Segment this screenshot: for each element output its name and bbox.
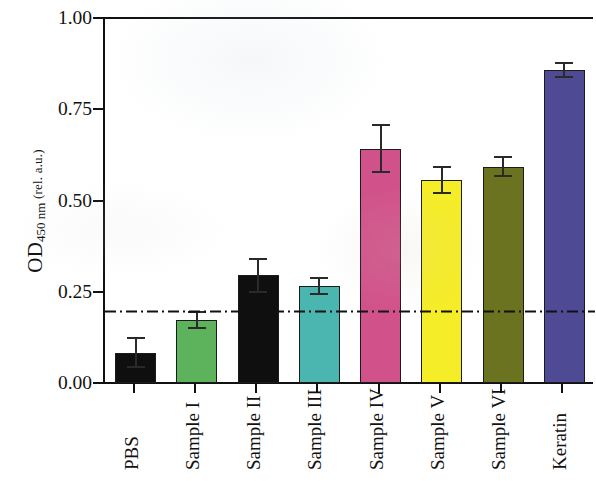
x-axis-tick-label-sample-i: Sample I [183,402,202,470]
error-bar-sample-ii [257,259,259,292]
x-axis-tick-mark [255,384,257,393]
x-axis-tick-label-sample-vi: Sample VI [489,389,508,470]
x-axis-tick-mark [561,384,563,393]
error-bar-cap [494,156,512,158]
y-axis-tick-labels: 1.000.750.500.250.00 [20,0,92,481]
error-bar-cap [555,62,573,64]
error-bar-cap [494,175,512,177]
x-axis-tick-label-sample-ii: Sample II [244,396,263,470]
cutoff-threshold-line [105,310,593,313]
y-axis-tick-mark [93,382,103,384]
error-bar-cap [310,293,328,295]
y-axis-tick-mark [93,291,103,293]
x-axis-tick-label-keratin: Keratin [550,413,569,470]
error-bar-cap [188,327,206,329]
y-axis-tick-mark [93,200,103,202]
error-bar-sample-iv [380,125,382,172]
error-bar-cap [249,258,267,260]
y-axis-tick-mark [93,108,103,110]
y-axis-tick-label: 0.50 [26,191,92,211]
y-axis-tick-mark [93,17,103,19]
plot-area [103,18,593,383]
error-bar-sample-v [441,167,443,193]
x-axis-tick-mark [194,384,196,393]
error-bar-cap [372,171,390,173]
bar-sample-v [421,180,462,383]
error-bar-cap [127,366,145,368]
error-bar-sample-vi [502,157,504,175]
error-bar-cap [433,192,451,194]
error-bar-cap [310,277,328,279]
x-axis-tick-label-sample-iv: Sample IV [367,388,386,470]
error-bar-cap [433,166,451,168]
error-bar-cap [372,124,390,126]
error-bar-cap [249,291,267,293]
error-bar-sample-i [196,312,198,328]
x-axis-tick-mark [439,384,441,393]
x-axis-tick-mark [133,384,135,393]
bar-keratin [544,70,585,383]
error-bar-keratin [563,63,565,78]
x-axis-tick-label-pbs: PBS [122,436,141,470]
bar-sample-iii [299,286,340,383]
bar-sample-vi [483,167,524,383]
bar-sample-iv [360,149,401,383]
y-axis-tick-label: 0.00 [26,373,92,393]
error-bar-cap [127,337,145,339]
y-axis-tick-label: 1.00 [26,8,92,28]
x-axis-tick-label-sample-v: Sample V [428,395,447,470]
x-axis-tick-label-sample-iii: Sample III [305,389,324,470]
y-axis-tick-label: 0.25 [26,282,92,302]
bar-sample-i [176,320,217,383]
error-bar-sample-iii [318,278,320,294]
bar-chart-figure: OD450 nm (rel. a.u.) 1.000.750.500.250.0… [0,0,596,481]
y-axis-tick-label: 0.75 [26,100,92,120]
error-bar-cap [555,76,573,78]
error-bar-pbs [135,338,137,367]
